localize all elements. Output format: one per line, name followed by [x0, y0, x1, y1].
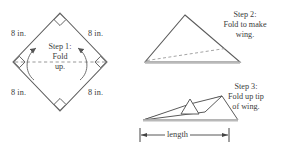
step2-caption-line2: Fold to make [212, 20, 278, 30]
step1-caption-line1: Step 1: [37, 42, 83, 52]
step1-caption: Step 1: Fold up. [37, 42, 83, 73]
step1-caption-line2: Fold [37, 52, 83, 62]
step2-caption-line3: wing. [212, 30, 278, 40]
step1-caption-line3: up. [37, 62, 83, 72]
step3-caption-line2: Fold up tip [214, 92, 278, 102]
step3-caption-line1: Step 3: [214, 82, 278, 92]
step2-caption-line1: Step 2: [212, 10, 278, 20]
label-side-bottom-right: 8 in. [88, 88, 103, 98]
step3-caption-line3: of wing. [214, 102, 278, 112]
step3-caption: Step 3: Fold up tip of wing. [214, 82, 278, 113]
label-side-bottom-left: 8 in. [11, 88, 26, 98]
label-side-top-left: 8 in. [11, 29, 26, 39]
step2-caption: Step 2: Fold to make wing. [212, 10, 278, 41]
length-dimension-label: length [165, 130, 190, 139]
paper-airplane-figure: 8 in. 8 in. 8 in. 8 in. Step 1: Fold up.… [0, 0, 281, 151]
label-side-top-right: 8 in. [88, 29, 103, 39]
